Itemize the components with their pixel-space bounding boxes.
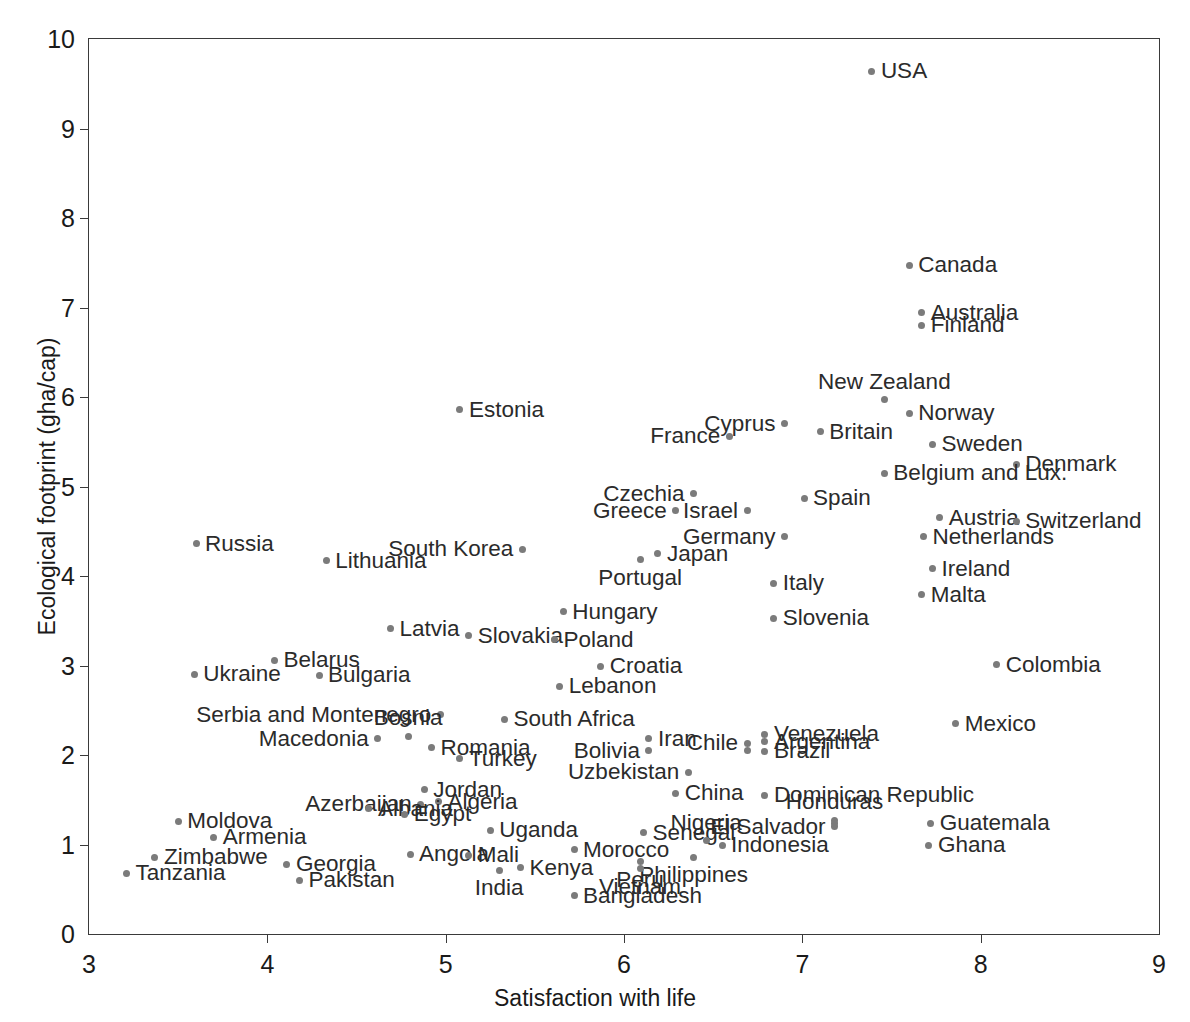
data-point[interactable]	[761, 792, 768, 799]
data-point[interactable]	[906, 410, 913, 417]
x-axis-tick	[624, 934, 625, 943]
data-point-label: Indonesia	[731, 834, 829, 857]
data-point[interactable]	[654, 550, 661, 557]
data-point-label: Honduras	[786, 791, 884, 814]
data-point[interactable]	[781, 533, 788, 540]
data-point[interactable]	[496, 867, 503, 874]
data-point-label: Italy	[783, 572, 824, 595]
data-point[interactable]	[925, 842, 932, 849]
data-point[interactable]	[428, 744, 435, 751]
data-point[interactable]	[817, 428, 824, 435]
data-point[interactable]	[685, 769, 692, 776]
data-point[interactable]	[761, 731, 768, 738]
data-point-label: Canada	[918, 254, 997, 277]
data-point[interactable]	[283, 861, 290, 868]
data-point[interactable]	[690, 854, 697, 861]
data-point[interactable]	[323, 557, 330, 564]
data-point[interactable]	[401, 811, 408, 818]
data-point[interactable]	[487, 827, 494, 834]
data-point[interactable]	[929, 441, 936, 448]
data-point[interactable]	[906, 262, 913, 269]
data-point[interactable]	[936, 514, 943, 521]
data-point[interactable]	[407, 851, 414, 858]
y-axis-tick	[80, 666, 89, 667]
data-point[interactable]	[719, 842, 726, 849]
data-point[interactable]	[556, 683, 563, 690]
data-point[interactable]	[519, 546, 526, 553]
data-point-label: China	[685, 782, 744, 805]
data-point[interactable]	[210, 834, 217, 841]
data-point-label: Sweden	[942, 433, 1023, 456]
data-point[interactable]	[421, 786, 428, 793]
data-point[interactable]	[456, 755, 463, 762]
x-axis-title: Satisfaction with life	[0, 985, 1190, 1012]
data-point[interactable]	[645, 735, 652, 742]
data-point[interactable]	[296, 877, 303, 884]
data-point[interactable]	[690, 490, 697, 497]
data-point[interactable]	[597, 663, 604, 670]
data-point[interactable]	[770, 615, 777, 622]
x-axis-tick-label: 4	[260, 950, 274, 979]
data-point[interactable]	[993, 661, 1000, 668]
data-point[interactable]	[123, 870, 130, 877]
data-point[interactable]	[918, 309, 925, 316]
data-point[interactable]	[637, 556, 644, 563]
y-axis-tick	[80, 129, 89, 130]
data-point-label: Japan	[667, 542, 728, 565]
data-point[interactable]	[801, 495, 808, 502]
data-point[interactable]	[637, 858, 644, 865]
data-point-label: Macedonia	[259, 728, 369, 751]
data-point[interactable]	[918, 591, 925, 598]
data-point[interactable]	[465, 632, 472, 639]
data-point[interactable]	[744, 747, 751, 754]
data-point[interactable]	[929, 565, 936, 572]
data-point[interactable]	[831, 823, 838, 830]
data-point[interactable]	[927, 820, 934, 827]
data-point-label: Tanzania	[135, 862, 225, 885]
data-point-label: India	[475, 877, 524, 900]
data-point-label: Bosnia	[374, 707, 443, 730]
data-point[interactable]	[560, 608, 567, 615]
data-point[interactable]	[744, 740, 751, 747]
data-point[interactable]	[175, 818, 182, 825]
data-point-label: New Zealand	[818, 370, 951, 393]
data-point-label: Britain	[829, 421, 893, 444]
data-point[interactable]	[571, 892, 578, 899]
data-point[interactable]	[761, 738, 768, 745]
data-point[interactable]	[405, 733, 412, 740]
data-point[interactable]	[726, 433, 733, 440]
data-point[interactable]	[316, 672, 323, 679]
data-point[interactable]	[770, 580, 777, 587]
data-point[interactable]	[703, 837, 710, 844]
y-axis-tick	[80, 755, 89, 756]
data-point-label: USA	[881, 60, 927, 83]
y-axis-tick	[80, 218, 89, 219]
data-point[interactable]	[571, 846, 578, 853]
data-point[interactable]	[781, 420, 788, 427]
data-point[interactable]	[868, 68, 875, 75]
y-axis-tick	[80, 487, 89, 488]
data-point[interactable]	[637, 865, 644, 872]
data-point[interactable]	[456, 406, 463, 413]
data-point-label: Finland	[931, 314, 1005, 337]
data-point[interactable]	[881, 470, 888, 477]
data-point[interactable]	[387, 625, 394, 632]
data-point[interactable]	[952, 720, 959, 727]
data-point[interactable]	[744, 507, 751, 514]
data-point[interactable]	[191, 671, 198, 678]
data-point[interactable]	[881, 396, 888, 403]
data-point[interactable]	[672, 507, 679, 514]
data-point[interactable]	[640, 829, 647, 836]
data-point[interactable]	[920, 533, 927, 540]
data-point[interactable]	[761, 748, 768, 755]
data-point[interactable]	[551, 636, 558, 643]
y-axis-tick	[80, 576, 89, 577]
data-point[interactable]	[918, 322, 925, 329]
data-point[interactable]	[517, 864, 524, 871]
data-point[interactable]	[645, 747, 652, 754]
data-point[interactable]	[193, 540, 200, 547]
x-axis-tick	[267, 934, 268, 943]
data-point[interactable]	[672, 790, 679, 797]
data-point[interactable]	[501, 716, 508, 723]
data-point[interactable]	[374, 735, 381, 742]
